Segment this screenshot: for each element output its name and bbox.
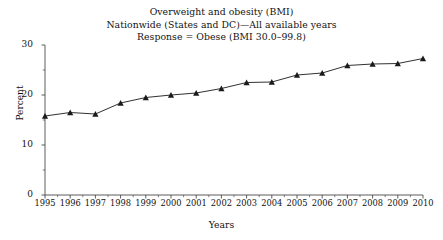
x-axis-tick-label: 1997 [85, 198, 106, 208]
x-axis-tick-label: 2009 [387, 198, 408, 208]
data-point-marker [420, 55, 426, 61]
data-markers [42, 55, 426, 118]
x-axis-tick-label: 1996 [60, 198, 81, 208]
x-axis-tick-label: 1995 [34, 198, 55, 208]
x-axis-tick-label: 1998 [110, 198, 131, 208]
chart-figure: Overweight and obesity (BMI) Nationwide … [0, 0, 443, 240]
x-axis-tick-label: 2008 [362, 198, 383, 208]
x-axis-tick-label: 2000 [160, 198, 181, 208]
x-axis-tick-label: 1999 [135, 198, 156, 208]
y-axis-title: Percent [15, 63, 25, 143]
x-axis-tick-label: 2005 [286, 198, 307, 208]
x-axis-tick-labels: 1995199619971998199920002001200220032004… [45, 198, 423, 212]
x-axis-tick-label: 2004 [261, 198, 282, 208]
data-line [45, 59, 423, 117]
axis-lines [45, 45, 423, 195]
x-axis-tick-label: 2007 [337, 198, 358, 208]
x-axis-title: Years [0, 219, 443, 230]
chart-title-block: Overweight and obesity (BMI) Nationwide … [0, 6, 443, 44]
chart-subtitle: Nationwide (States and DC)—All available… [0, 19, 443, 32]
axis-ticks [42, 45, 424, 199]
x-axis-tick-label: 2002 [211, 198, 232, 208]
x-axis-tick-label: 2003 [236, 198, 257, 208]
chart-subtitle-secondary: Response = Obese (BMI 30.0–99.8) [0, 31, 443, 44]
y-axis-tick-label: 30 [22, 39, 33, 49]
plot-area [45, 45, 423, 195]
y-axis-tick-label: 0 [27, 189, 33, 199]
x-axis-tick-label: 2010 [412, 198, 433, 208]
chart-title: Overweight and obesity (BMI) [0, 6, 443, 19]
plot-svg [45, 45, 423, 195]
x-axis-tick-label: 2001 [186, 198, 207, 208]
x-axis-tick-label: 2006 [312, 198, 333, 208]
